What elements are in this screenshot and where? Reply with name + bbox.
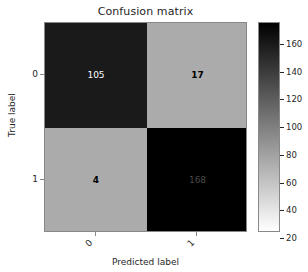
- x-tick-mark-1: [196, 232, 197, 236]
- colorbar-tick-label-40: 40: [286, 206, 297, 215]
- matrix-plot-area: 105 17 4 168: [44, 22, 247, 232]
- colorbar-tick-mark-40: [280, 210, 284, 211]
- x-axis-label: Predicted label: [44, 257, 247, 267]
- matrix-cell-value: 17: [191, 71, 204, 80]
- x-tick-label-1: 1: [185, 237, 196, 248]
- x-tick-label-0: 0: [83, 237, 94, 248]
- matrix-cell-true0-pred0: 105: [45, 23, 147, 128]
- matrix-cell-value: 105: [87, 71, 104, 80]
- colorbar-tick-mark-160: [280, 44, 284, 45]
- matrix-cell-true0-pred1: 17: [147, 23, 247, 128]
- matrix-cell-true1-pred0: 4: [45, 128, 147, 232]
- matrix-cell-value: 4: [93, 176, 99, 185]
- colorbar-tick-label-80: 80: [286, 151, 297, 160]
- colorbar-tick-label-100: 100: [286, 123, 302, 132]
- matrix-cell-true1-pred1: 168: [147, 128, 247, 232]
- colorbar-tick-label-120: 120: [286, 95, 302, 104]
- matrix-cell-value: 168: [189, 176, 206, 185]
- x-tick-mark-0: [95, 232, 96, 236]
- colorbar-tick-label-160: 160: [286, 40, 302, 49]
- colorbar-tick-mark-80: [280, 155, 284, 156]
- colorbar-tick-mark-140: [280, 72, 284, 73]
- colorbar-gradient: [258, 22, 280, 232]
- y-tick-label-1: 1: [18, 174, 38, 184]
- colorbar-tick-mark-100: [280, 127, 284, 128]
- colorbar: 16014012010080604020: [258, 22, 280, 232]
- chart-title: Confusion matrix: [44, 5, 247, 18]
- colorbar-tick-mark-60: [280, 183, 284, 184]
- colorbar-tick-label-60: 60: [286, 179, 297, 188]
- y-axis-label: True label: [7, 85, 17, 145]
- y-tick-label-0: 0: [18, 69, 38, 79]
- confusion-matrix-figure: Confusion matrix True label 0 1 105 17 4…: [0, 0, 308, 272]
- colorbar-tick-mark-20: [280, 238, 284, 239]
- colorbar-tick-label-140: 140: [286, 68, 302, 77]
- colorbar-tick-label-20: 20: [286, 234, 297, 243]
- colorbar-tick-mark-120: [280, 99, 284, 100]
